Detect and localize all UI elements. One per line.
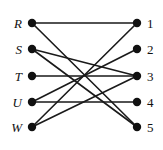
node-label-s: S	[16, 42, 23, 57]
node-t[interactable]	[28, 72, 36, 80]
node-label-3: 3	[147, 69, 154, 84]
node-3[interactable]	[133, 72, 141, 80]
node-u[interactable]	[28, 98, 36, 106]
node-2[interactable]	[133, 45, 141, 53]
node-1[interactable]	[133, 19, 141, 27]
edge-s-5	[32, 49, 137, 127]
node-label-5: 5	[147, 120, 154, 135]
graph-canvas: RSTUW12345	[0, 0, 163, 150]
edge-s-3	[32, 49, 137, 76]
node-r[interactable]	[28, 19, 36, 27]
node-s[interactable]	[28, 45, 36, 53]
bipartite-graph-figure: RSTUW12345	[0, 0, 163, 150]
node-label-w: W	[11, 120, 23, 135]
node-label-2: 2	[147, 42, 154, 57]
node-5[interactable]	[133, 123, 141, 131]
node-label-t: T	[15, 69, 23, 84]
node-label-r: R	[13, 16, 22, 31]
edges-layer	[32, 23, 137, 127]
node-label-u: U	[13, 95, 24, 110]
node-4[interactable]	[133, 98, 141, 106]
node-w[interactable]	[28, 123, 36, 131]
node-label-1: 1	[147, 16, 154, 31]
node-label-4: 4	[147, 95, 154, 110]
